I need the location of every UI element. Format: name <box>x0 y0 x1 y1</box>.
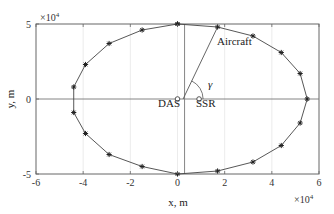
x-tick-label: -6 <box>32 177 40 188</box>
asterisk-marker <box>107 152 112 157</box>
asterisk-marker <box>215 168 220 173</box>
asterisk-marker <box>83 131 88 136</box>
x-tick-label: -4 <box>79 177 87 188</box>
asterisk-marker <box>250 159 255 164</box>
asterisk-marker <box>279 143 284 148</box>
x-tick-label: 0 <box>175 177 180 188</box>
y-tick-label: 5 <box>26 19 31 30</box>
asterisk-marker <box>107 41 112 46</box>
x-tick-label: 4 <box>269 177 274 188</box>
y-tick-label: -5 <box>23 169 31 180</box>
y-tick-label: 0 <box>26 94 31 105</box>
y-axis-ticks: -505 <box>23 19 39 180</box>
asterisk-marker <box>298 71 303 76</box>
x-tick-label: 2 <box>222 177 227 188</box>
aircraft-angle-annotation <box>175 27 217 101</box>
asterisk-marker <box>298 120 303 125</box>
y-multiplier: ×104 <box>40 11 60 23</box>
x-multiplier: ×104 <box>294 193 314 205</box>
asterisk-marker <box>140 27 145 32</box>
asterisk-marker <box>140 164 145 169</box>
asterisk-marker <box>305 96 310 101</box>
trajectory-chart: -6-4-20246 -505 x, m y, m ×104 ×104 DAS … <box>0 0 334 214</box>
x-axis-label: x, m <box>168 196 188 208</box>
asterisk-marker <box>279 50 284 55</box>
y-axis-label: y, m <box>4 89 16 108</box>
asterisk-marker <box>83 62 88 67</box>
x-tick-label: -2 <box>126 177 134 188</box>
asterisk-marker <box>71 110 76 115</box>
asterisk-marker <box>71 84 76 89</box>
asterisk-marker <box>215 24 220 29</box>
aircraft-label: Aircraft <box>217 35 252 47</box>
x-tick-label: 6 <box>317 177 322 188</box>
ssr-label: SSR <box>196 97 216 109</box>
das-label: DAS <box>158 97 180 109</box>
gamma-label: γ <box>208 78 213 90</box>
